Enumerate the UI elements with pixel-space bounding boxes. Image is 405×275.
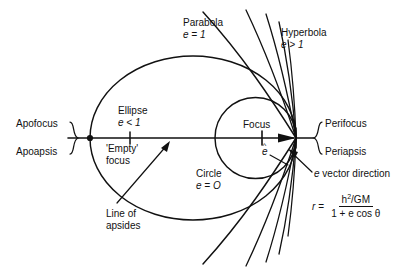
label-circle-name: Circle <box>196 168 222 180</box>
label-perifocus: Perifocus <box>325 118 367 130</box>
label-e-hat-symbol: ^e <box>262 146 268 157</box>
equation-numerator: h2/GM <box>339 194 373 207</box>
periapsis-brace <box>314 122 322 154</box>
label-ellipse: Ellipse e < 1 <box>118 105 147 129</box>
equation-equals: = <box>318 201 324 212</box>
label-line-of-apsides-line1: Line of <box>106 208 140 220</box>
label-hyperbola-name: Hyperbola <box>281 27 327 39</box>
label-empty-focus: 'Empty' focus <box>106 143 138 167</box>
label-apoapsis: Apoapsis <box>16 146 57 158</box>
orbit-equation: r = h2/GM 1 + e cos θ <box>312 194 383 219</box>
label-focus: Focus <box>243 119 270 131</box>
label-parabola-eccentricity: e = 1 <box>183 29 223 41</box>
label-e-vector-direction-text: vector direction <box>320 168 391 179</box>
equation-fraction: h2/GM 1 + e cos θ <box>328 194 383 219</box>
label-hyperbola: Hyperbola e > 1 <box>281 27 327 51</box>
conic-curves-canvas <box>0 0 405 275</box>
label-line-of-apsides: Line of apsides <box>106 208 140 232</box>
label-hyperbola-eccentricity: e > 1 <box>281 39 327 51</box>
label-apofocus: Apofocus <box>16 118 58 130</box>
label-e-vector-direction: e vector direction <box>314 168 390 180</box>
equation-lhs: r <box>312 201 315 212</box>
label-parabola-name: Parabola <box>183 17 223 29</box>
e-hat-caret: ^ <box>263 141 267 150</box>
label-parabola: Parabola e = 1 <box>183 17 223 41</box>
label-circle: Circle e = O <box>196 168 222 192</box>
label-circle-eccentricity: e = O <box>196 180 222 192</box>
label-periapsis: Periapsis <box>325 146 366 158</box>
label-ellipse-name: Ellipse <box>118 105 147 117</box>
apoapsis-point-marker <box>87 135 93 141</box>
label-ellipse-eccentricity: e < 1 <box>118 117 147 129</box>
label-empty-focus-line2: focus <box>106 155 138 167</box>
label-empty-focus-line1: 'Empty' <box>106 143 138 155</box>
equation-numerator-rest: /GM <box>351 194 370 205</box>
equation-denominator: 1 + e cos θ <box>328 207 383 219</box>
orbit-conics-diagram: Parabola e = 1 Hyperbola e > 1 Ellipse e… <box>0 0 405 275</box>
label-line-of-apsides-line2: apsides <box>106 220 140 232</box>
